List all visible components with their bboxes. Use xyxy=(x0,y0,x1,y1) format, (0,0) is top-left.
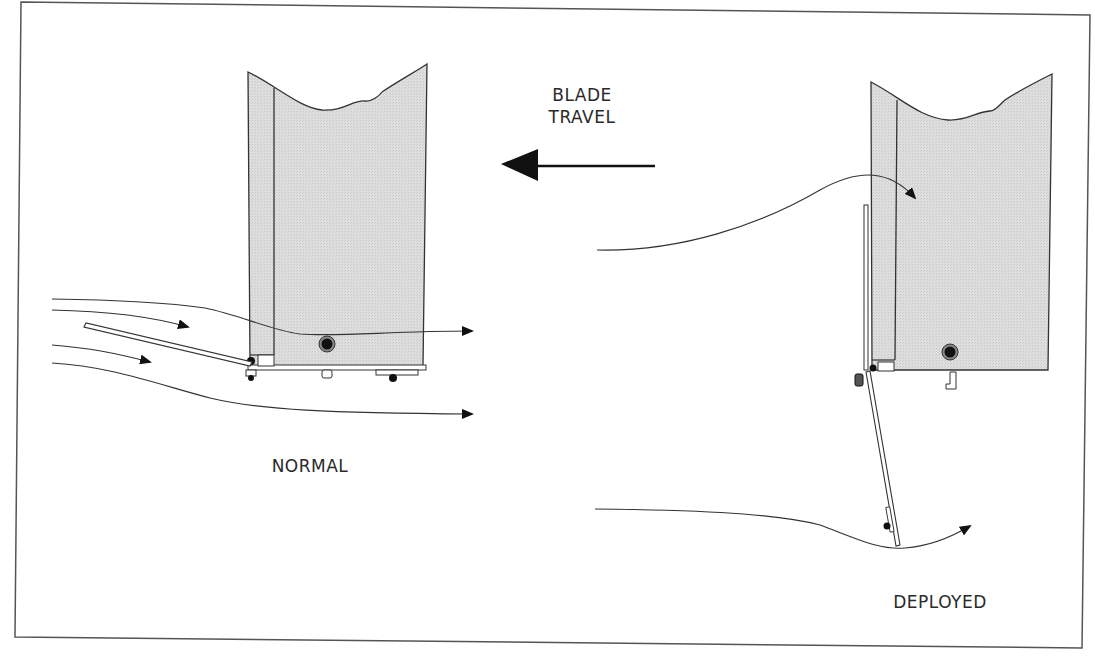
blade-travel-arrow xyxy=(501,149,655,181)
flap-deployed xyxy=(866,371,900,546)
blade-travel-line1: BLADE xyxy=(532,84,632,106)
normal-label: NORMAL xyxy=(255,455,365,477)
blade-body-deployed xyxy=(871,74,1052,370)
hinge-pin-icon xyxy=(870,365,877,372)
blade-travel-label: BLADE TRAVEL xyxy=(532,84,632,128)
hinge-block xyxy=(258,355,274,366)
blade-travel-line2: TRAVEL xyxy=(532,106,632,128)
blade-body-normal xyxy=(248,64,427,366)
normal-blade-assembly xyxy=(84,64,427,382)
flap-retracted xyxy=(84,323,252,366)
deployed-label: DEPLOYED xyxy=(880,591,1000,613)
deployed-blade-assembly xyxy=(855,74,1052,546)
